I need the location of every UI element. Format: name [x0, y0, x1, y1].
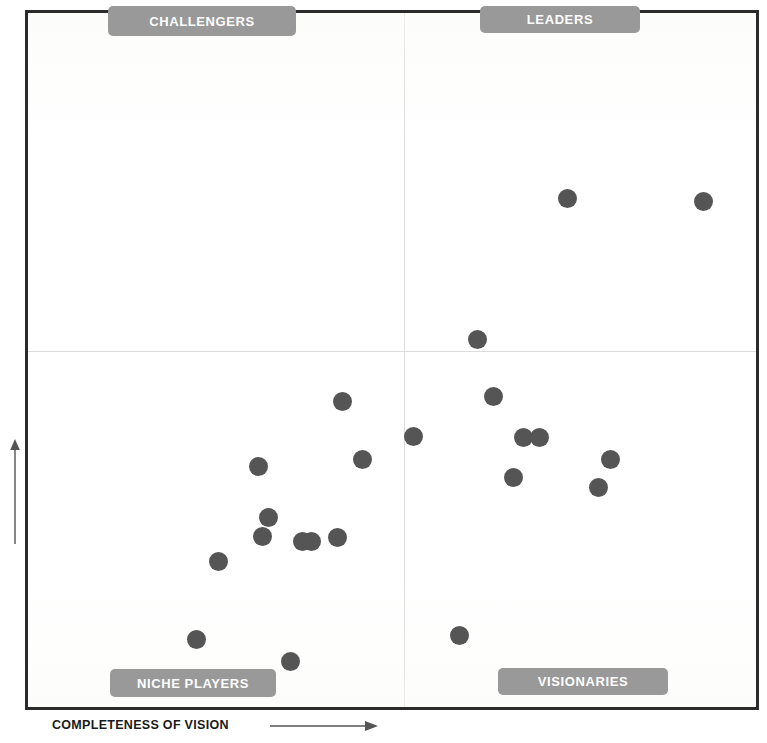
data-point	[187, 630, 206, 649]
quadrant-label-niche-players: NICHE PLAYERS	[110, 669, 276, 697]
magic-quadrant-figure: CHALLENGERS LEADERS NICHE PLAYERS VISION…	[0, 0, 767, 743]
data-point	[589, 478, 608, 497]
data-point	[504, 468, 523, 487]
quadrant-label-challengers-text: CHALLENGERS	[149, 14, 255, 29]
data-point	[253, 527, 272, 546]
data-point	[353, 450, 372, 469]
data-point	[404, 427, 423, 446]
data-point	[259, 508, 278, 527]
data-point	[694, 192, 713, 211]
data-point	[333, 392, 352, 411]
quadrant-label-visionaries-text: VISIONARIES	[538, 674, 628, 689]
data-point	[328, 528, 347, 547]
data-point	[530, 428, 549, 447]
data-point	[209, 552, 228, 571]
vertical-divider	[404, 13, 405, 707]
data-point	[601, 450, 620, 469]
data-point	[302, 532, 321, 551]
quadrant-label-challengers: CHALLENGERS	[108, 6, 296, 36]
horizontal-divider	[28, 351, 756, 352]
data-point	[468, 330, 487, 349]
quadrant-label-leaders-text: LEADERS	[527, 12, 593, 27]
right-arrow-icon	[270, 718, 380, 734]
quadrant-label-leaders: LEADERS	[480, 6, 640, 33]
up-arrow-icon	[8, 438, 22, 544]
x-axis-label: COMPLETENESS OF VISION	[52, 718, 229, 732]
data-point	[249, 457, 268, 476]
quadrant-label-visionaries: VISIONARIES	[498, 668, 668, 695]
data-point	[281, 652, 300, 671]
data-point	[450, 626, 469, 645]
quadrant-label-niche-players-text: NICHE PLAYERS	[137, 676, 249, 691]
plot-area	[25, 10, 759, 710]
data-point	[558, 189, 577, 208]
data-point	[484, 387, 503, 406]
